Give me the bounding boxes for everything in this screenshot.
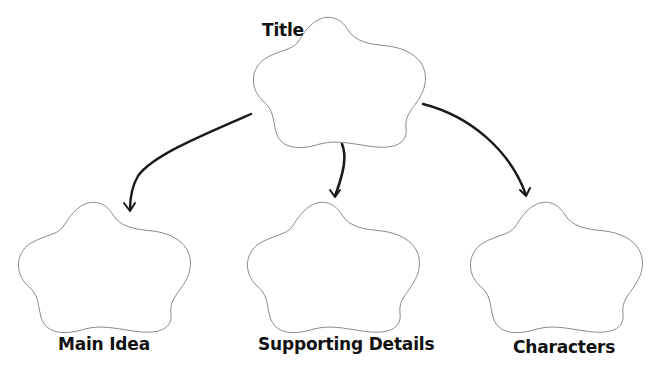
label-main-idea: Main Idea bbox=[58, 334, 150, 354]
cloud-supporting-details[interactable] bbox=[247, 202, 419, 332]
diagram-canvas bbox=[0, 0, 656, 368]
arrow-title-to-characters bbox=[423, 104, 530, 196]
cloud-main-idea[interactable] bbox=[18, 202, 190, 332]
arrow-title-to-main-idea bbox=[124, 114, 251, 211]
label-title: Title bbox=[262, 20, 304, 40]
cloud-characters[interactable] bbox=[470, 202, 642, 332]
label-supporting-details: Supporting Details bbox=[258, 334, 434, 354]
arrow-title-to-supporting-details bbox=[330, 144, 344, 197]
label-characters: Characters bbox=[513, 337, 615, 357]
